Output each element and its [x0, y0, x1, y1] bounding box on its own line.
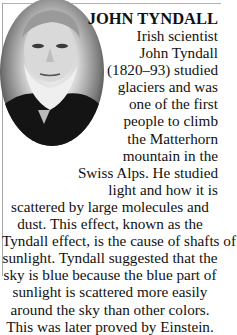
caption-title: JOHN TYNDALL — [2, 9, 218, 29]
caption-line: scattered by large molecules and — [2, 198, 218, 215]
biography-caption: JOHN TYNDALL Irish scientist John Tyndal… — [2, 9, 218, 335]
caption-line: John Tyndall — [2, 44, 218, 61]
caption-line: glaciers and was — [2, 78, 218, 95]
caption-line: Tyndall effect, is the cause of shafts o… — [2, 232, 218, 249]
caption-line: the Matterhorn — [2, 130, 218, 147]
caption-line: (1820–93) studied — [2, 61, 218, 78]
caption-line: people to climb — [2, 112, 218, 129]
caption-line: one of the first — [2, 95, 218, 112]
caption-line: light and how it is — [2, 181, 218, 198]
caption-line: Irish scientist — [2, 27, 218, 44]
caption-line: sky is blue because the blue part of — [2, 266, 218, 283]
caption-line: dust. This effect, known as the — [2, 215, 218, 232]
caption-line: mountain in the — [2, 147, 218, 164]
caption-line: This was later proved by Einstein. — [2, 318, 218, 335]
caption-line: sunlight. Tyndall suggested that the — [2, 249, 218, 266]
caption-line: Swiss Alps. He studied — [2, 164, 218, 181]
caption-line: sunlight is scattered more easily — [2, 283, 218, 300]
caption-line: around the sky than other colors. — [2, 301, 218, 318]
